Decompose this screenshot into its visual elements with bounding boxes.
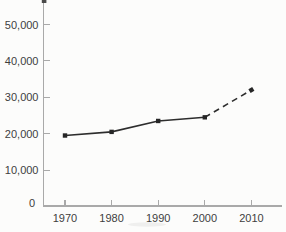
data-point-marker <box>156 119 160 123</box>
data-line-solid <box>65 117 205 135</box>
x-tick-label: 2000 <box>193 212 217 224</box>
y-tick-label: 0 <box>29 197 35 209</box>
y-tick-label: 10,000 <box>5 164 39 176</box>
x-tick-label: 1980 <box>99 212 123 224</box>
x-tick-label: 2010 <box>239 212 263 224</box>
data-point-marker <box>63 133 67 137</box>
x-tick-label: 1970 <box>53 212 77 224</box>
data-line-dashed-projection <box>205 90 252 117</box>
data-point-marker <box>248 87 254 93</box>
chart-canvas: 010,00020,00030,00040,00050,000197019801… <box>0 0 286 232</box>
x-tick-label: 1990 <box>146 212 170 224</box>
y-tick-label: 20,000 <box>5 128 39 140</box>
y-tick-label: 50,000 <box>5 19 39 31</box>
data-point-marker <box>203 115 207 119</box>
data-point-marker <box>109 130 113 134</box>
line-chart-figure: 010,00020,00030,00040,00050,000197019801… <box>0 0 286 232</box>
y-tick-label: 30,000 <box>5 91 39 103</box>
y-tick-label: 40,000 <box>5 55 39 67</box>
cropped-axis-top-mark <box>42 0 47 3</box>
